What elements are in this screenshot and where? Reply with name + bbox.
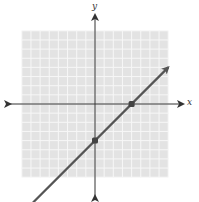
x-axis-label: x (187, 97, 192, 107)
y-intercept-point (92, 138, 98, 144)
x-intercept-point (129, 101, 135, 107)
y-axis-label: y (92, 1, 97, 11)
coordinate-plane (0, 0, 199, 202)
